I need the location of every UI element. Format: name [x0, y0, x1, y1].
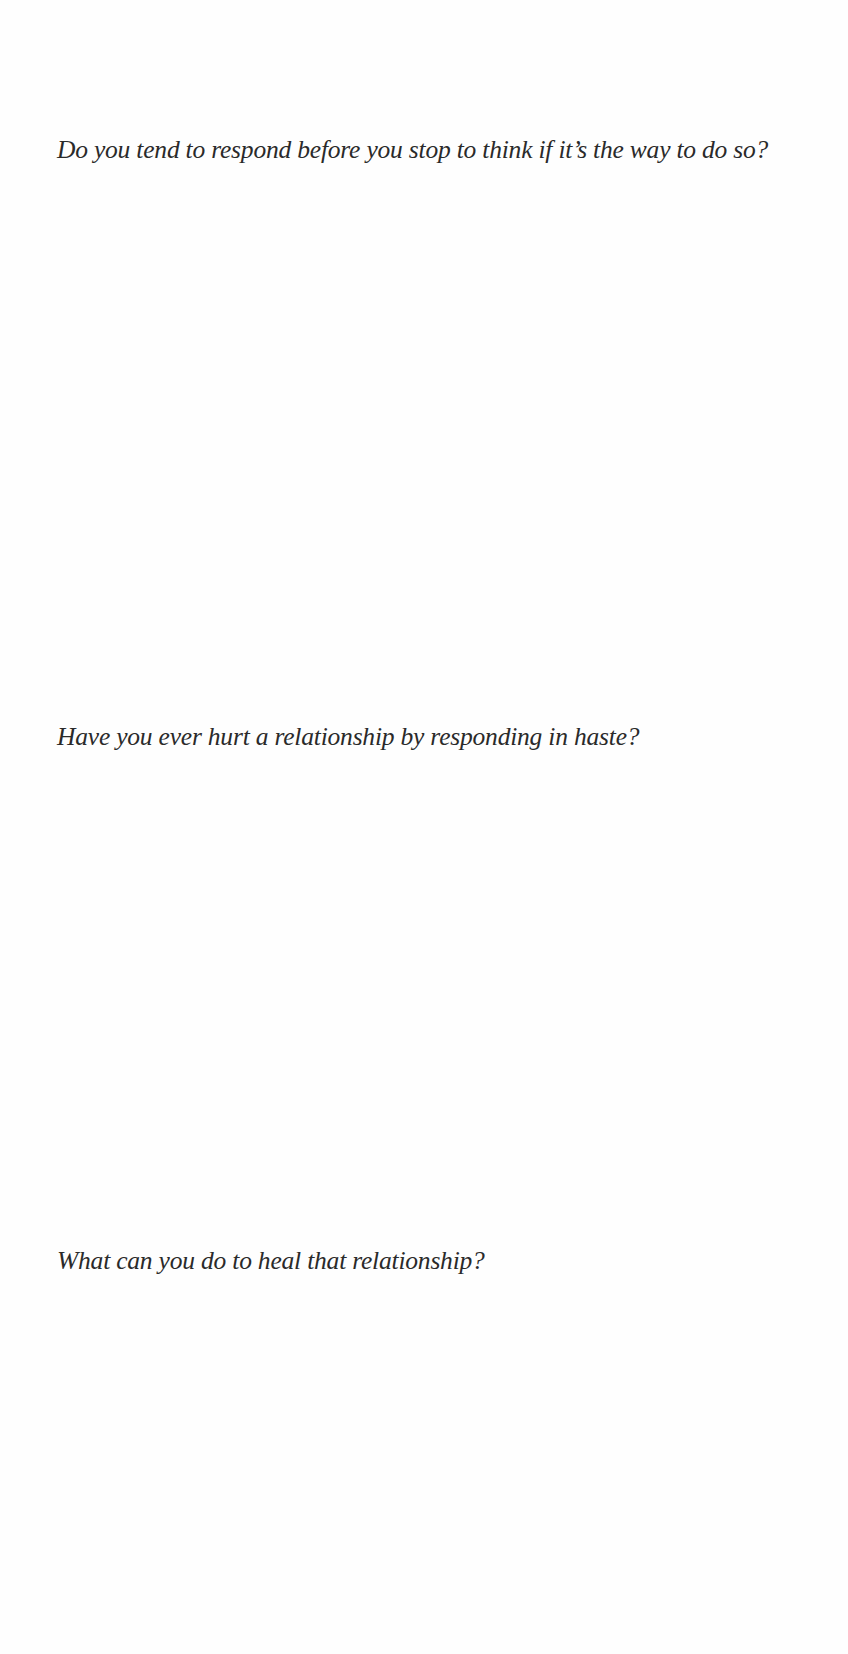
worksheet-page: Do you tend to respond before you stop t… — [0, 0, 848, 1654]
question-3: What can you do to heal that relationshi… — [57, 1235, 797, 1287]
answer-space-3[interactable] — [57, 1295, 797, 1635]
question-2: Have you ever hurt a relationship by res… — [57, 711, 797, 763]
answer-space-2[interactable] — [57, 770, 797, 1220]
question-1: Do you tend to respond before you stop t… — [57, 124, 797, 176]
answer-space-1[interactable] — [57, 232, 797, 692]
